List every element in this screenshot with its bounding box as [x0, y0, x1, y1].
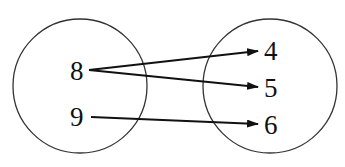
range-value-4: 4 [264, 36, 278, 66]
mapping-diagram: 8 9 4 5 6 [0, 0, 345, 167]
range-value-6: 6 [264, 110, 278, 140]
domain-circle [13, 19, 147, 153]
domain-value-8: 8 [70, 56, 84, 86]
range-value-5: 5 [264, 73, 278, 103]
arrow-8-to-5 [89, 70, 258, 87]
arrow-9-to-6 [91, 117, 258, 124]
arrow-8-to-4 [89, 51, 258, 70]
domain-value-9: 9 [70, 102, 84, 132]
